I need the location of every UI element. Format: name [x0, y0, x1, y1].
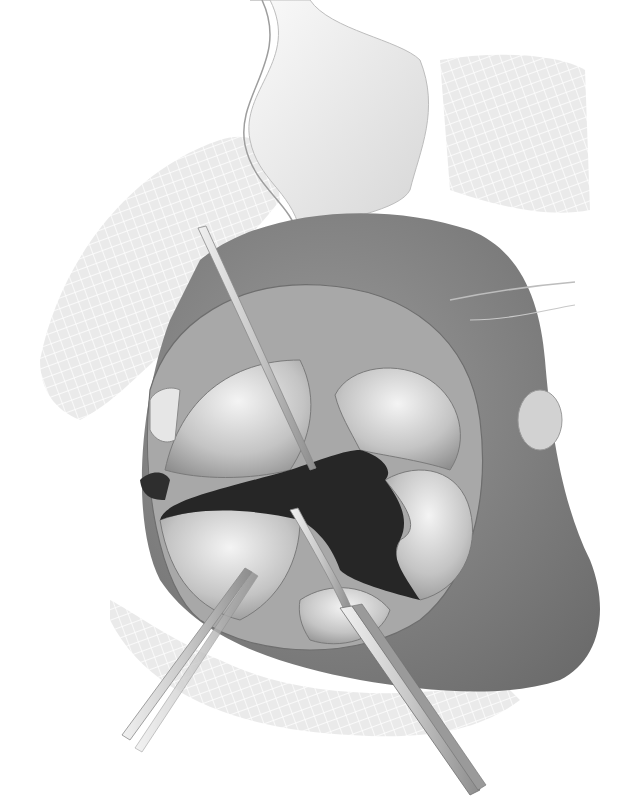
leaflet-left-edge: [150, 388, 180, 442]
surgical-illustration: [0, 0, 628, 812]
tissue-bulge-right: [518, 390, 562, 450]
drape-upper-right: [440, 55, 590, 213]
illustration-canvas: [0, 0, 628, 812]
